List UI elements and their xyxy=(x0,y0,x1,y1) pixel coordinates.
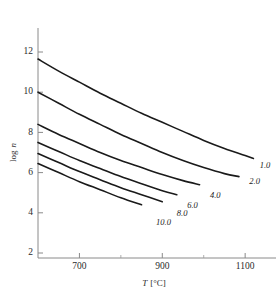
data-curve xyxy=(38,164,142,205)
tick-labels-group: 246810127009001100 xyxy=(24,46,255,271)
y-axis-tick-label: 8 xyxy=(28,127,33,137)
y-axis-tick-label: 10 xyxy=(24,86,34,96)
x-axis-tick-label: 700 xyxy=(72,261,87,271)
data-curve xyxy=(38,92,239,176)
data-curve xyxy=(38,154,162,202)
curve-label: 4.0 xyxy=(210,190,221,200)
x-axis-tick-label: 900 xyxy=(155,261,170,271)
y-axis-title: logn xyxy=(8,142,18,162)
y-axis-tick-label: 6 xyxy=(28,167,33,177)
curve-label: 8.0 xyxy=(177,208,188,218)
curve-label: 1.0 xyxy=(260,160,271,170)
curve-label: 6.0 xyxy=(187,200,198,210)
curve-label: 2.0 xyxy=(249,176,260,186)
tick-marks-group xyxy=(38,52,245,258)
y-axis-tick-label: 12 xyxy=(24,46,34,56)
curve-label: 10.0 xyxy=(156,217,172,227)
data-curves-group xyxy=(38,59,253,205)
chart-figure: 246810127009001100 1.02.04.06.08.010.0 T… xyxy=(0,0,278,296)
y-axis-tick-label: 2 xyxy=(28,247,33,257)
x-axis-tick-label: 1100 xyxy=(236,261,255,271)
chart-plot-area: 246810127009001100 1.02.04.06.08.010.0 T… xyxy=(0,0,278,296)
x-axis-title: T[°C] xyxy=(142,278,166,288)
y-axis-tick-label: 4 xyxy=(28,207,33,217)
